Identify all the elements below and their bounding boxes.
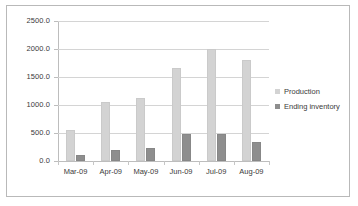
x-axis-label-jun-09: Jun-09: [164, 167, 199, 176]
y-axis-tick-label: 2000.0: [6, 44, 50, 53]
bar-ending-inventory-mar-09: [76, 155, 85, 161]
x-axis-label-apr-09: Apr-09: [93, 167, 128, 176]
x-axis-tick-mark: [199, 161, 200, 165]
x-axis-tick-mark: [93, 161, 94, 165]
chart-legend: ProductionEnding inventory: [275, 86, 351, 116]
bar-production-may-09: [136, 98, 145, 161]
chart-frame: 0.0500.01000.01500.02000.02500.0 Mar-09A…: [6, 5, 350, 197]
legend-swatch-icon: [275, 89, 280, 94]
legend-label: Production: [284, 87, 320, 96]
y-axis-tick-label: 1000.0: [6, 100, 50, 109]
bar-production-apr-09: [101, 102, 110, 161]
x-axis-label-jul-09: Jul-09: [199, 167, 234, 176]
gridline-500.0: [58, 133, 269, 134]
bar-ending-inventory-jul-09: [217, 134, 226, 161]
y-axis-tick-label: 500.0: [6, 128, 50, 137]
bar-ending-inventory-jun-09: [182, 134, 191, 161]
bar-production-jul-09: [207, 49, 216, 161]
x-axis-label-mar-09: Mar-09: [58, 167, 93, 176]
gridline-2500.0: [58, 21, 269, 22]
x-axis-tick-mark: [234, 161, 235, 165]
y-axis-tick-label: 2500.0: [6, 16, 50, 25]
bar-production-aug-09: [242, 60, 251, 161]
legend-item-production[interactable]: Production: [275, 86, 351, 96]
legend-swatch-icon: [275, 104, 280, 109]
legend-item-ending-inventory[interactable]: Ending inventory: [275, 101, 351, 111]
bar-production-jun-09: [172, 68, 181, 161]
plot-area: [58, 21, 269, 161]
x-axis-label-aug-09: Aug-09: [234, 167, 269, 176]
gridline-1000.0: [58, 105, 269, 106]
bar-production-mar-09: [66, 130, 75, 161]
gridline-1500.0: [58, 77, 269, 78]
legend-label: Ending inventory: [284, 102, 340, 111]
x-axis-label-may-09: May-09: [128, 167, 163, 176]
x-axis-tick-mark: [269, 161, 270, 165]
gridline-2000.0: [58, 49, 269, 50]
bar-ending-inventory-may-09: [146, 148, 155, 161]
y-axis-tick-label: 1500.0: [6, 72, 50, 81]
y-axis-tick-label: 0.0: [6, 156, 50, 165]
bar-ending-inventory-apr-09: [111, 150, 120, 161]
x-axis-tick-mark: [58, 161, 59, 165]
x-axis-tick-mark: [164, 161, 165, 165]
x-axis-tick-mark: [128, 161, 129, 165]
bar-ending-inventory-aug-09: [252, 142, 261, 161]
